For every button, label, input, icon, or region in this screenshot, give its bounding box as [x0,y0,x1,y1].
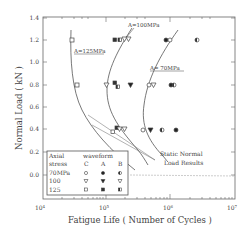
y-tick-label: 1.2 [29,36,39,43]
static-label-2: Load Results [164,159,203,166]
y-axis-label: Normal Load ( kN ) [14,66,24,150]
static-label-1: Static Normal [160,150,203,157]
y-tick-label: 1.0 [29,58,39,65]
x-tick-label: 107 [227,204,238,212]
y-tick-label: 0.4 [29,125,39,132]
legend-row-125: 125 [49,186,61,193]
legend-col-a: A [100,160,106,167]
point-70a [164,38,168,42]
legend: Axial waveform stress C A B 70MPa 100 12… [47,151,128,195]
annotation-125mpa: A=125MPa [73,48,106,54]
legend-waveform: waveform [83,152,113,159]
y-tick-label: 0.6 [29,103,39,110]
curve-70mpa [143,30,178,162]
fatigue-life-chart: 1.4 1.2 1.0 0.8 0.6 0.4 0.2 0.0 104 105 … [0,0,251,236]
y-tick-label: 1.4 [29,14,39,21]
legend-row-70: 70MPa [49,169,71,176]
legend-stress: stress [49,160,67,167]
point-70c [168,38,172,42]
legend-col-c: C [84,160,89,167]
zero-load-line [130,175,235,176]
x-tick-label: 106 [163,204,174,212]
point-125a [113,38,117,42]
x-tick-label: 105 [99,204,110,212]
annotation-100mpa: A=100MPa [127,22,160,28]
legend-row-100: 100 [49,177,61,184]
x-axis-label: Fatigue Life ( Number of Cycles ) [68,215,212,225]
y-tick-label: 0.0 [29,171,39,178]
legend-axial: Axial [48,152,64,159]
point-100b [126,37,131,42]
y-tick-label: 0.8 [29,81,39,88]
annotation-70mpa: A= 70MPa [149,65,180,71]
x-tick-label: 104 [35,204,46,212]
point-125c [70,38,74,42]
legend-col-b: B [118,160,123,167]
y-tick-label: 0.2 [29,148,39,155]
